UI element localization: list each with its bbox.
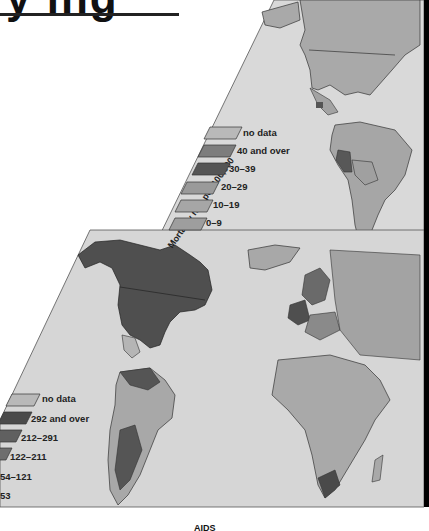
upper-legend-label-4: 10–19 [213,199,239,210]
lower-legend-swatches [0,392,45,504]
upper-legend-swatches-2 [165,180,225,240]
map-panels [0,0,429,531]
lower-legend-label-1: 292 and over [31,413,89,424]
lower-legend-label-2: 212–291 [21,432,58,443]
upper-legend-label-5: 0–9 [206,217,222,228]
lower-legend-label-4: 54–121 [0,471,32,482]
lower-legend-label-0: no data [42,393,76,404]
upper-legend-label-0: no data [243,127,277,138]
upper-legend-label-2: 30–39 [229,163,255,174]
caption-aids: AIDS [194,523,216,531]
upper-legend-label-1: 40 and over [237,145,290,156]
lower-legend-label-3: 122–211 [10,451,46,462]
upper-legend-label-3: 20–29 [221,181,247,192]
lower-legend-label-5: 53 [0,490,11,501]
page-edge [424,0,429,507]
lower-map-panel [0,230,424,507]
